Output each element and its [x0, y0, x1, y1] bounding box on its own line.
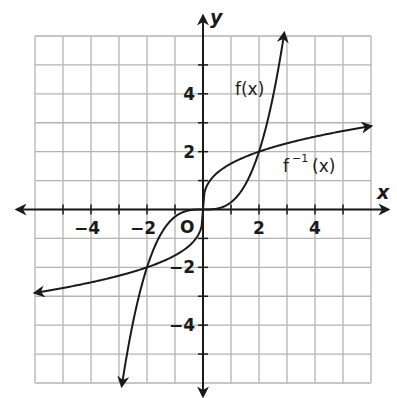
curve-labels: y x O f(x) f −1 (x)	[180, 6, 390, 237]
x-tick-label: −4	[74, 218, 100, 238]
y-tick-label: −4	[169, 315, 195, 335]
y-tick-label: 4	[183, 84, 195, 104]
f-inverse-label: f −1 (x)	[283, 152, 335, 176]
f-label: f(x)	[235, 79, 264, 99]
origin-label: O	[180, 217, 194, 237]
x-tick-label: 2	[253, 218, 265, 238]
x-axis-label: x	[376, 181, 390, 203]
x-tick-label: 4	[309, 218, 321, 238]
x-tick-label: −2	[130, 218, 156, 238]
svg-text:−1: −1	[292, 152, 308, 165]
y-tick-label: 2	[183, 142, 195, 162]
function-inverse-graph: −4−22442−2−4 y x O f(x) f −1 (x)	[0, 0, 397, 398]
svg-text:(x): (x)	[312, 156, 335, 176]
y-tick-label: −2	[169, 257, 195, 277]
svg-text:f: f	[283, 156, 290, 176]
y-axis-label: y	[210, 6, 224, 28]
